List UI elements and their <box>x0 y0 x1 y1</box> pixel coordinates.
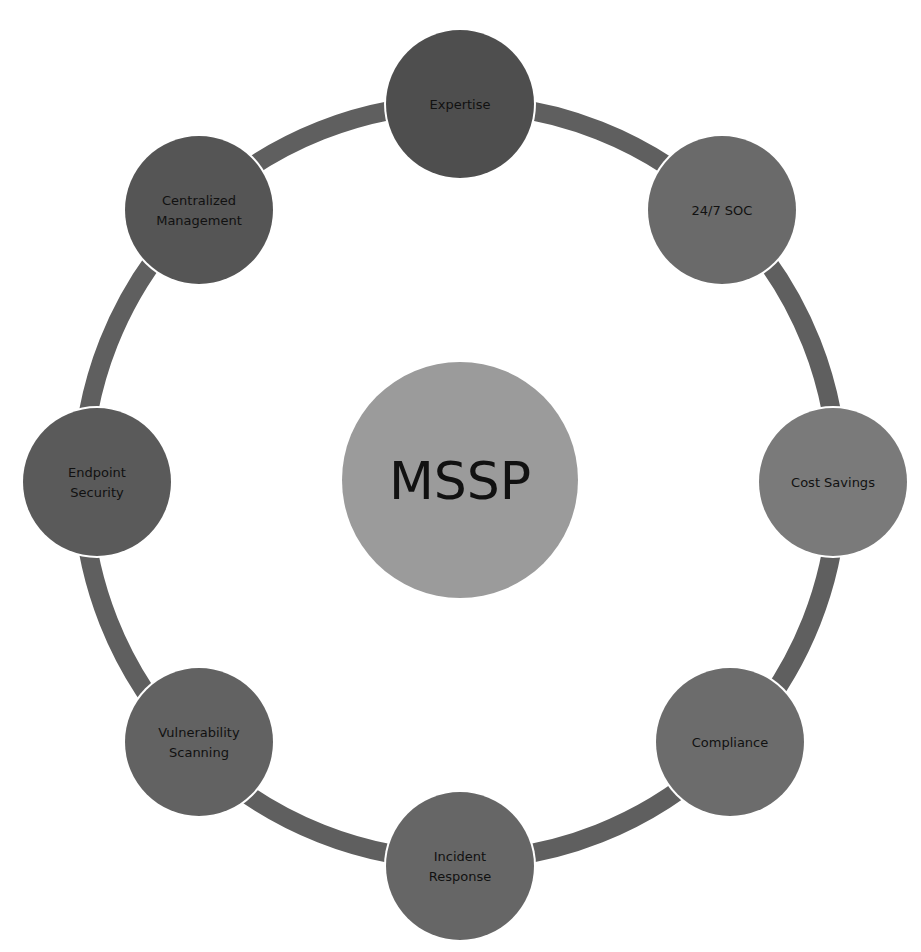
center-hub: MSSP <box>342 362 578 598</box>
node-cost-savings: Cost Savings <box>757 406 909 558</box>
node-label: Compliance <box>692 735 769 750</box>
node-label: Incident <box>434 849 486 864</box>
node-label: Response <box>429 869 491 884</box>
node-endpoint-security: EndpointSecurity <box>21 406 173 558</box>
node-soc: 24/7 SOC <box>646 134 798 286</box>
node-label: Scanning <box>169 745 229 760</box>
node-centralized-management: CentralizedManagement <box>123 134 275 286</box>
node-circle <box>125 668 273 816</box>
node-expertise: Expertise <box>384 28 536 180</box>
node-vulnerability-scanning: VulnerabilityScanning <box>123 666 275 818</box>
node-label: Centralized <box>162 193 236 208</box>
node-label: 24/7 SOC <box>692 203 753 218</box>
node-label: Cost Savings <box>791 475 875 490</box>
node-circle <box>386 792 534 940</box>
node-label: Expertise <box>430 97 491 112</box>
node-incident-response: IncidentResponse <box>384 790 536 942</box>
node-compliance: Compliance <box>654 666 806 818</box>
node-label: Security <box>70 485 124 500</box>
node-label: Vulnerability <box>158 725 240 740</box>
center-label: MSSP <box>389 451 531 511</box>
node-label: Management <box>156 213 242 228</box>
node-circle <box>125 136 273 284</box>
node-circle <box>23 408 171 556</box>
node-label: Endpoint <box>68 465 126 480</box>
mssp-diagram: Expertise24/7 SOCCost SavingsComplianceI… <box>0 0 921 952</box>
